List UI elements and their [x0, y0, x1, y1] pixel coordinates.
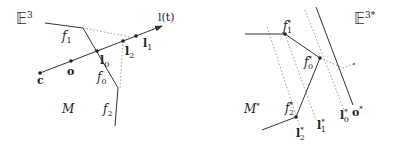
space-label-E3-star: 𝔼3*: [354, 10, 376, 28]
point-label-l0: l0: [100, 54, 109, 69]
dotted-extension-f2: [120, 41, 123, 88]
vertex-label-f1-star: f*1: [282, 19, 292, 35]
point-l2: [121, 39, 125, 43]
face-label-f0: f0: [96, 70, 107, 86]
dual-panel: 𝔼3* f*1 f*0 f*2 l*2 l*1 l*0 o* M*: [243, 7, 376, 142]
dual-plane-l2: [267, 27, 300, 127]
dual-plane-c: [316, 7, 353, 105]
vertex-f2-star: [294, 115, 298, 119]
point-l1: [134, 34, 138, 38]
manifold-label-M-star: M*: [243, 102, 260, 116]
point-label-l2: l2: [125, 45, 134, 60]
point-o: [69, 59, 73, 63]
vertex-f0-star: [318, 56, 322, 60]
point-label-c: c: [37, 74, 44, 87]
manifold-label-M: M: [61, 102, 75, 116]
point-label-l1: l1: [143, 37, 152, 52]
small-dot: [353, 63, 355, 65]
dotted-extension-f1: [83, 28, 130, 37]
plane-label-l2-star: l*2: [296, 126, 305, 142]
point-label-o: o: [67, 65, 74, 78]
plane-label-l1-star: l*1: [317, 118, 326, 134]
face-label-f1: f1: [61, 29, 72, 45]
point-l0: [95, 49, 99, 53]
plane-label-l0-star: l*0: [340, 108, 349, 124]
face-label-f2: f2: [102, 102, 113, 118]
vertex-label-f0-star: f*0: [303, 55, 313, 71]
vertex-label-f2-star: f*2: [284, 101, 294, 117]
ray-label: l(t): [158, 11, 175, 24]
origin-label-o-star: o*: [352, 105, 363, 119]
diagram-canvas: 𝔼3 f1 f0 f2 c o l0 l2 l1 l(t) M 𝔼3* f*1 …: [0, 0, 394, 150]
primal-panel: 𝔼3 f1 f0 f2 c o l0 l2 l1 l(t) M: [16, 10, 175, 126]
space-label-E3: 𝔼3: [16, 10, 33, 28]
